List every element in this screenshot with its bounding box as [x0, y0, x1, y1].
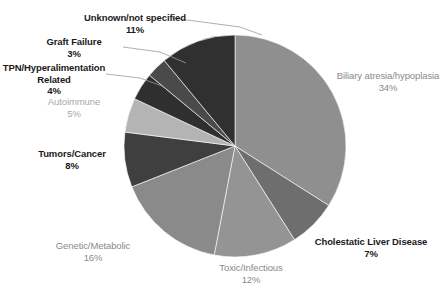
- slice-label-graft-failure-pct: 3%: [28, 48, 120, 60]
- slice-label-graft-failure-name: Graft Failure: [28, 36, 120, 48]
- pie-chart-figure: Unknown/not specified 11% Graft Failure …: [0, 0, 447, 297]
- slice-label-toxic-infectious-pct: 12%: [196, 274, 306, 286]
- slice-label-biliary-atresia-pct: 34%: [330, 82, 446, 94]
- slice-label-autoimmune: Autoimmune 5%: [26, 96, 122, 119]
- slice-label-genetic-metabolic-name: Genetic/Metabolic: [38, 240, 148, 252]
- slice-label-genetic-metabolic-pct: 16%: [38, 252, 148, 264]
- slice-label-unknown: Unknown/not specified 11%: [60, 12, 210, 35]
- slice-label-cholestatic: Cholestatic Liver Disease 7%: [306, 236, 436, 259]
- slice-label-biliary-atresia-name: Biliary atresia/hypoplasia: [330, 70, 446, 82]
- slice-label-tumors-cancer-pct: 8%: [20, 160, 124, 172]
- slice-label-autoimmune-pct: 5%: [26, 108, 122, 120]
- slice-label-unknown-name: Unknown/not specified: [60, 12, 210, 24]
- slice-label-tpn: TPN/Hyperalimentation Related 4%: [2, 62, 106, 97]
- slice-label-biliary-atresia: Biliary atresia/hypoplasia 34%: [330, 70, 446, 93]
- slice-label-tpn-name2: Related: [2, 74, 106, 86]
- slice-label-autoimmune-name: Autoimmune: [26, 96, 122, 108]
- slice-label-tumors-cancer-name: Tumors/Cancer: [20, 148, 124, 160]
- slice-label-unknown-pct: 11%: [60, 24, 210, 36]
- pie-slice-group: [124, 35, 346, 257]
- slice-label-genetic-metabolic: Genetic/Metabolic 16%: [38, 240, 148, 263]
- slice-label-tpn-pct: 4%: [2, 85, 106, 97]
- slice-label-toxic-infectious: Toxic/Infectious 12%: [196, 262, 306, 285]
- slice-label-toxic-infectious-name: Toxic/Infectious: [196, 262, 306, 274]
- slice-label-tumors-cancer: Tumors/Cancer 8%: [20, 148, 124, 171]
- slice-label-cholestatic-pct: 7%: [306, 248, 436, 260]
- slice-label-tpn-name: TPN/Hyperalimentation: [2, 62, 106, 74]
- slice-label-cholestatic-name: Cholestatic Liver Disease: [306, 236, 436, 248]
- slice-label-graft-failure: Graft Failure 3%: [28, 36, 120, 59]
